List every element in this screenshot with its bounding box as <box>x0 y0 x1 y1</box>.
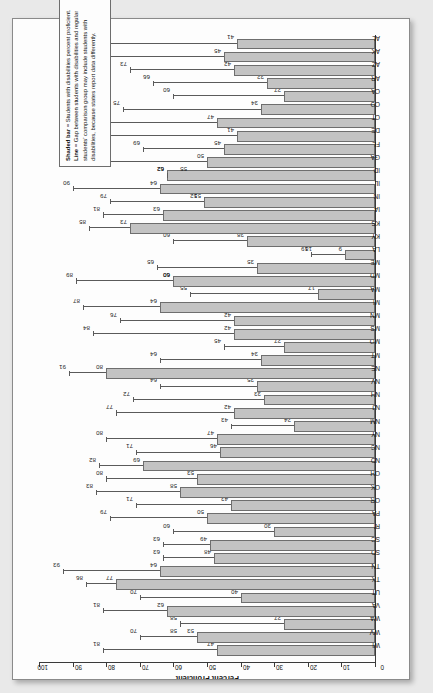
gap-line-NM <box>231 425 295 426</box>
gap-line-ME <box>157 267 258 268</box>
line-value-MO: 45 <box>214 338 221 344</box>
bar-IL <box>160 184 375 195</box>
bar-AL <box>237 39 375 50</box>
bar-KY <box>247 236 375 247</box>
gap-line-OR <box>136 504 230 505</box>
line-cap-TX <box>86 582 87 587</box>
bar-WI <box>217 645 375 656</box>
line-cap-WA <box>180 621 181 626</box>
gap-line-DE <box>99 135 237 136</box>
legend-shaded-bar-text: = Students with disabilities percent pro… <box>65 10 71 129</box>
line-cap-NM <box>231 424 232 429</box>
gap-line-SC <box>163 544 210 545</box>
line-cap-NH <box>133 397 134 402</box>
gap-line-TX <box>86 583 116 584</box>
bar-MA <box>318 289 375 300</box>
line-value-MS: 84 <box>83 325 90 331</box>
line-value-NY: 80 <box>96 430 103 436</box>
gap-line-LA <box>311 254 345 255</box>
gap-line-FL <box>143 148 224 149</box>
bar-FL <box>224 144 375 155</box>
gap-line-SD <box>163 557 213 558</box>
gap-line-CO <box>123 109 261 110</box>
axis-tick-label: 90 <box>74 664 81 670</box>
line-value-MI: 87 <box>73 298 80 304</box>
axis-tick-label: 20 <box>310 664 317 670</box>
line-cap-SD <box>163 555 164 560</box>
bar-NM <box>294 421 375 432</box>
bar-value-GA: 50 <box>197 153 204 159</box>
bar-ID <box>167 170 375 181</box>
line-cap-MD <box>76 278 77 283</box>
bar-value-MT: 34 <box>251 351 258 357</box>
line-value-MN: 76 <box>110 311 117 317</box>
axis-tick-label: 40 <box>242 664 249 670</box>
bar-OR <box>231 500 375 511</box>
bar-PA <box>207 513 375 524</box>
line-cap-SC <box>163 542 164 547</box>
bar-value-NY: 47 <box>207 430 214 436</box>
line-cap-IA <box>103 213 104 218</box>
bar-value-CO: 34 <box>251 100 258 106</box>
line-cap-CO <box>123 107 124 112</box>
axis-tick <box>375 663 376 667</box>
bar-value-NE: 80 <box>96 364 103 370</box>
line-cap-MO <box>224 344 225 349</box>
bar-MD <box>173 276 375 287</box>
gap-line-ND <box>99 465 143 466</box>
line-value-ID: 62 <box>157 166 164 172</box>
bar-value-OK: 58 <box>170 483 177 489</box>
line-value-IA: 81 <box>93 206 100 212</box>
line-cap-AZ <box>130 67 131 72</box>
bar-MI <box>160 302 375 313</box>
bar-value-AK: 45 <box>214 48 221 54</box>
line-cap-UT <box>140 595 141 600</box>
bar-CT <box>217 118 375 129</box>
axis-tick-label: 100 <box>37 664 48 670</box>
bar-NE <box>106 368 375 379</box>
line-value-NM: 43 <box>221 417 228 423</box>
bar-TN <box>160 566 375 577</box>
gap-line-AZ <box>130 69 234 70</box>
gap-line-IA <box>103 214 163 215</box>
gap-line-NV <box>160 386 257 387</box>
axis-tick <box>73 663 74 667</box>
line-value-ND: 82 <box>90 457 97 463</box>
legend-line-text: = Gap between students with disabilities… <box>73 11 79 149</box>
gap-line-NE <box>69 372 106 373</box>
line-value-WV: 70 <box>130 628 137 634</box>
gap-line-NY <box>106 438 217 439</box>
bar-NH <box>264 395 375 406</box>
line-value-PA: 79 <box>100 509 107 515</box>
line-value-MT: 64 <box>150 351 157 357</box>
line-value-CO: 75 <box>113 100 120 106</box>
axis-tick-label: 30 <box>276 664 283 670</box>
gap-line-CA <box>173 95 284 96</box>
bar-ME <box>257 263 375 274</box>
bar-WA <box>284 619 375 630</box>
line-value-AZ: 73 <box>120 61 127 67</box>
gap-line-RI <box>173 531 274 532</box>
line-cap-RI <box>173 529 174 534</box>
axis-tick-label: 80 <box>108 664 115 670</box>
line-cap-TN <box>63 569 64 574</box>
bar-KS <box>130 223 375 234</box>
gap-line-IN <box>110 201 204 202</box>
line-cap-OH <box>106 476 107 481</box>
gap-line-AK <box>103 56 224 57</box>
line-value-OR: 71 <box>127 496 134 502</box>
gap-line-OH <box>106 478 197 479</box>
bar-NJ <box>234 408 375 419</box>
line-cap-ME <box>157 265 158 270</box>
bar-GA <box>207 157 375 168</box>
gap-line-UT <box>140 597 241 598</box>
axis-title: Percent Proficient <box>176 674 239 679</box>
bar-value-WV: 53 <box>187 628 194 634</box>
line-value-AR: 66 <box>143 74 150 80</box>
category-label-AL: AL <box>372 35 380 41</box>
gap-line-NC <box>136 452 220 453</box>
gap-line-MI <box>83 306 160 307</box>
gap-line-VA <box>103 610 167 611</box>
line-value-NH: 72 <box>123 391 130 397</box>
line-cap-OK <box>96 490 97 495</box>
